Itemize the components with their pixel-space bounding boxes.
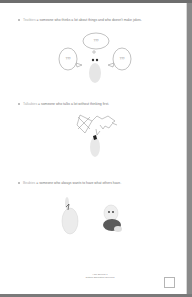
footer: I am Special 1 Ontario Education Service… [70,273,130,280]
ghost-figure [90,135,100,157]
thought-text-left: ??? [65,57,70,61]
thought-text-right: ??? [119,57,124,61]
checkbox[interactable] [164,277,175,288]
term: Talkabies [23,102,37,106]
thought-text-top: ??? [93,39,98,43]
jealous-bunnies-illustration [58,195,134,241]
thought-bubble-top [83,33,109,53]
definition-item-2: Talkabies = someone who talks a lot with… [18,102,109,106]
bullet-icon [18,103,20,105]
thinking-ghost-illustration: ??? ??? ??? [58,31,134,87]
bullet-icon [18,182,20,184]
scribble-speech [77,115,117,135]
term: Beabies [23,181,35,185]
bunny-left [62,197,78,234]
definition: = someone who thinks a lot about things … [36,18,142,22]
bunny-right [103,205,122,232]
talking-ghost-illustration [75,111,125,161]
definition: = someone who always wants to have what … [35,181,121,185]
document-page: Teatbies = someone who thinks a lot abou… [0,3,187,294]
definition-item-1: Teatbies = someone who thinks a lot abou… [18,18,142,22]
definition: = someone who talks a lot without thinki… [37,102,109,106]
term: Teatbies [23,18,36,22]
definition-item-3: Beabies = someone who always wants to ha… [18,181,121,185]
footer-subtitle: Ontario Education Services [70,276,130,279]
bullet-icon [18,19,20,21]
ghost-figure [89,59,101,83]
